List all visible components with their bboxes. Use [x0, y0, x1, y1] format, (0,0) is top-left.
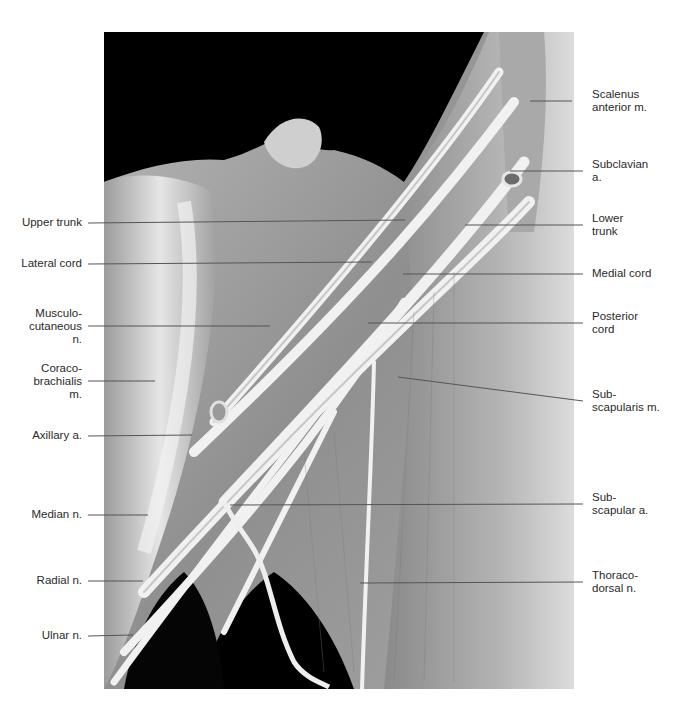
label-median-n: Median n. [31, 508, 82, 521]
label-scalenus-anterior-m: Scalenus anterior m. [592, 88, 647, 114]
dissection-illustration [104, 32, 574, 689]
label-upper-trunk: Upper trunk [22, 216, 82, 229]
label-lateral-cord: Lateral cord [21, 257, 82, 270]
label-ulnar-n: Ulnar n. [42, 629, 82, 642]
label-subscapular-a: Sub- scapular a. [592, 491, 648, 517]
label-radial-n: Radial n. [37, 574, 82, 587]
label-lower-trunk: Lower trunk [592, 212, 623, 238]
label-subscapularis-m: Sub- scapularis m. [592, 388, 660, 414]
label-thoracodorsal-n: Thoraco- dorsal n. [592, 569, 638, 595]
dissection-photo [104, 32, 574, 689]
label-axillary-a: Axillary a. [32, 429, 82, 442]
label-medial-cord: Medial cord [592, 267, 651, 280]
label-coracobrachialis-m: Coraco- brachialis m. [33, 362, 82, 401]
label-musculocutaneous-n: Musculo- cutaneous n. [29, 307, 82, 346]
label-posterior-cord: Posterior cord [592, 310, 638, 336]
label-subclavian-a: Subclavian a. [592, 158, 648, 184]
